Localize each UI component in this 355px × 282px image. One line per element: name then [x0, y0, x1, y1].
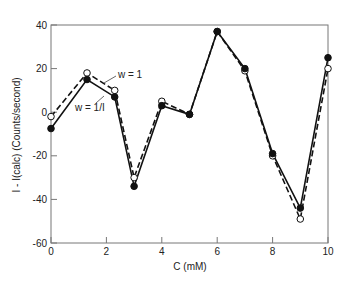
- series-line-w1: [51, 32, 328, 219]
- x-axis-title: C (mM): [173, 261, 206, 272]
- y-tick-label: 40: [36, 20, 48, 31]
- data-point-open: [111, 87, 118, 94]
- chart: -60-40-20020400246810 w = 1 w = 1/I C (m…: [0, 0, 355, 282]
- series-line-w1overI: [51, 32, 328, 209]
- data-point-filled: [325, 54, 332, 61]
- data-point-filled: [111, 94, 118, 101]
- data-point-filled: [48, 125, 55, 132]
- data-point-open: [325, 65, 332, 72]
- y-tick-label: 20: [36, 63, 48, 74]
- legend-label-w1: w = 1: [117, 69, 143, 80]
- axes: -60-40-20020400246810: [33, 20, 334, 258]
- data-point-filled: [242, 65, 249, 72]
- x-tick-label: 2: [104, 246, 110, 257]
- series-layer: [51, 32, 328, 219]
- y-tick-label: 0: [41, 107, 47, 118]
- data-point-open: [48, 113, 55, 120]
- data-point-filled: [84, 76, 91, 83]
- legend-label-w1overI: w = 1/I: [74, 102, 105, 113]
- data-point-filled: [214, 28, 221, 35]
- data-point-filled: [186, 111, 193, 118]
- data-point-open: [297, 216, 304, 223]
- legend-leader-w1: [104, 76, 116, 83]
- y-tick-label: -20: [33, 150, 48, 161]
- y-tick-label: -60: [33, 238, 48, 249]
- data-point-filled: [159, 102, 166, 109]
- x-tick-label: 6: [214, 246, 220, 257]
- x-tick-label: 8: [270, 246, 276, 257]
- data-point-open: [84, 70, 91, 77]
- x-tick-label: 0: [48, 246, 54, 257]
- data-point-open: [131, 174, 138, 181]
- data-point-filled: [297, 205, 304, 212]
- data-point-filled: [269, 150, 276, 157]
- x-tick-label: 4: [159, 246, 165, 257]
- x-tick-label: 10: [322, 246, 334, 257]
- data-point-filled: [131, 183, 138, 190]
- y-tick-label: -40: [33, 194, 48, 205]
- markers-layer: [48, 28, 332, 222]
- plot-frame: [51, 25, 328, 243]
- y-axis-title: I - I(calc) (Counts/second): [11, 77, 22, 192]
